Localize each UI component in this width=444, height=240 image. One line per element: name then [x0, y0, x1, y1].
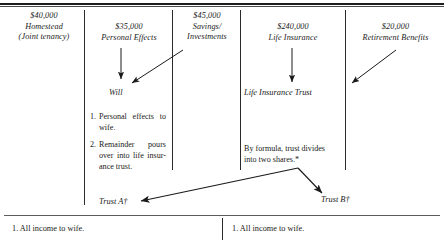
arrow-savings-to-will	[132, 50, 183, 83]
retirement-amount: $20,000	[349, 22, 442, 33]
life-insurance-label: Life Insurance	[244, 33, 342, 44]
savings-amount: $45,000	[176, 11, 238, 22]
will-provision-2-line-3: ance trust.	[99, 161, 166, 172]
estate-flow-chart: $40,000 Homestead (Joint tenancy) $35,00…	[0, 0, 444, 240]
asset-header-retirement-benefits: $20,000 Retirement Benefits	[349, 22, 442, 43]
homestead-sublabel: (Joint tenancy)	[6, 32, 82, 43]
asset-header-savings-investments: $45,000 Savings/ Investments	[176, 11, 238, 43]
node-trust-a: Trust A†	[99, 196, 127, 207]
trust-note-line-1: By formula, trust divides	[244, 143, 342, 154]
personal-effects-label: Personal Effects	[88, 33, 170, 44]
will-provision-1-number: 1.	[90, 111, 96, 122]
bottom-column-divider	[222, 218, 223, 240]
column-divider-2	[172, 10, 173, 170]
asset-header-personal-effects: $35,000 Personal Effects	[88, 22, 170, 43]
node-trust-b: Trust B†	[321, 194, 350, 205]
arrow-retirement-to-life-insurance-trust	[352, 50, 396, 83]
section-divider-rule	[4, 215, 440, 216]
will-provision-1-line-1: Personal effects to	[99, 111, 166, 122]
top-rule-thin	[0, 6, 444, 7]
savings-label: Savings/	[176, 22, 238, 33]
trust-note-line-2: into two shares.*	[244, 154, 342, 165]
retirement-label: Retirement Benefits	[349, 33, 442, 44]
column-divider-3	[240, 10, 241, 170]
trust-a-terms-cell: 1. All income to wife.	[12, 223, 212, 235]
personal-effects-amount: $35,000	[88, 22, 170, 33]
trust-a-term-1: 1. All income to wife.	[12, 224, 84, 233]
arrow-trust-split-to-trust-b	[298, 168, 322, 193]
node-will: Will	[109, 87, 123, 98]
will-provision-2: 2. Remainder pours over into life insur-…	[90, 139, 166, 173]
top-rule-thick	[0, 3, 444, 5]
asset-header-homestead: $40,000 Homestead (Joint tenancy)	[6, 11, 82, 43]
asset-header-life-insurance: $240,000 Life Insurance	[244, 22, 342, 43]
savings-sublabel: Investments	[176, 32, 238, 43]
will-provision-1-line-2: wife.	[99, 122, 166, 133]
node-life-insurance-trust: Life Insurance Trust	[244, 87, 312, 98]
arrow-trust-split-to-trust-a	[141, 168, 298, 201]
homestead-label: Homestead	[6, 22, 82, 33]
homestead-amount: $40,000	[6, 11, 82, 22]
column-divider-4	[345, 10, 346, 170]
trust-b-term-1: 1. All income to wife.	[232, 224, 304, 233]
will-provision-2-line-2: over into life insur-	[99, 150, 166, 161]
trust-b-terms-cell: 1. All income to wife.	[232, 223, 432, 235]
trust-division-note: By formula, trust divides into two share…	[244, 143, 342, 165]
will-provision-1: 1. Personal effects to wife.	[90, 111, 166, 133]
life-insurance-amount: $240,000	[244, 22, 342, 33]
will-provision-2-line-1: Remainder pours	[99, 139, 166, 150]
will-provision-2-number: 2.	[90, 139, 96, 150]
column-divider-1	[84, 10, 85, 205]
